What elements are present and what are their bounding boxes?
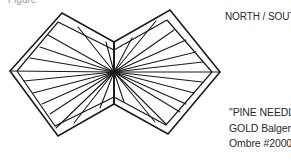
caption-pattern-name: "PINE NEEDLE"	[229, 105, 291, 121]
diagram-title: NORTH / SOUTH	[225, 11, 291, 23]
center-point	[112, 70, 116, 74]
caption-thread-number: Ombre #2000	[229, 136, 291, 152]
diagram-caption: "PINE NEEDLE" GOLD Balger Ombre #2000	[229, 105, 291, 152]
caption-thread-brand: GOLD Balger	[229, 121, 291, 137]
left-shape	[10, 13, 114, 136]
